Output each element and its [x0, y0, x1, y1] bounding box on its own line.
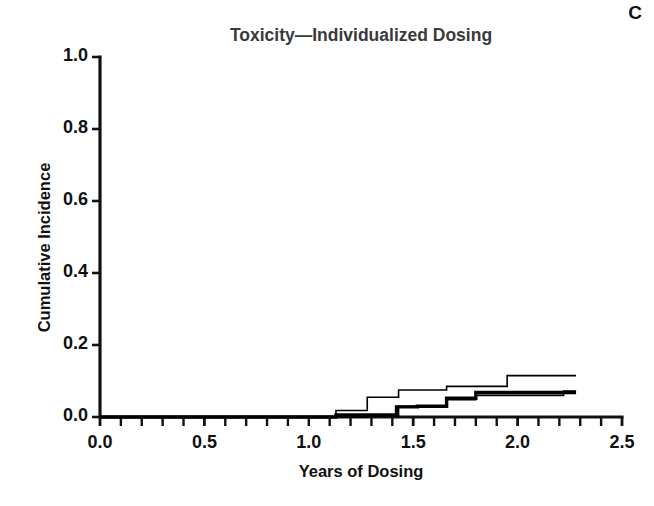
series-line-1 — [100, 376, 576, 417]
plot-area — [0, 0, 654, 506]
axis-spine — [100, 57, 622, 417]
y-tick-label-0.0: 0.0 — [36, 405, 88, 426]
data-series — [100, 376, 576, 417]
series-line-3 — [100, 391, 576, 417]
axes — [92, 57, 622, 426]
x-tick-label-2.5: 2.5 — [592, 432, 652, 453]
y-tick-label-0.6: 0.6 — [36, 189, 88, 210]
x-tick-label-0.0: 0.0 — [70, 432, 130, 453]
y-tick-label-0.4: 0.4 — [36, 261, 88, 282]
y-tick-label-0.2: 0.2 — [36, 333, 88, 354]
y-tick-label-0.8: 0.8 — [36, 117, 88, 138]
x-tick-label-0.5: 0.5 — [174, 432, 234, 453]
x-tick-label-1.5: 1.5 — [383, 432, 443, 453]
x-tick-label-1.0: 1.0 — [279, 432, 339, 453]
x-tick-label-2.0: 2.0 — [488, 432, 548, 453]
y-tick-label-1.0: 1.0 — [36, 45, 88, 66]
figure-panel-c: C Toxicity—Individualized Dosing Cumulat… — [0, 0, 654, 506]
